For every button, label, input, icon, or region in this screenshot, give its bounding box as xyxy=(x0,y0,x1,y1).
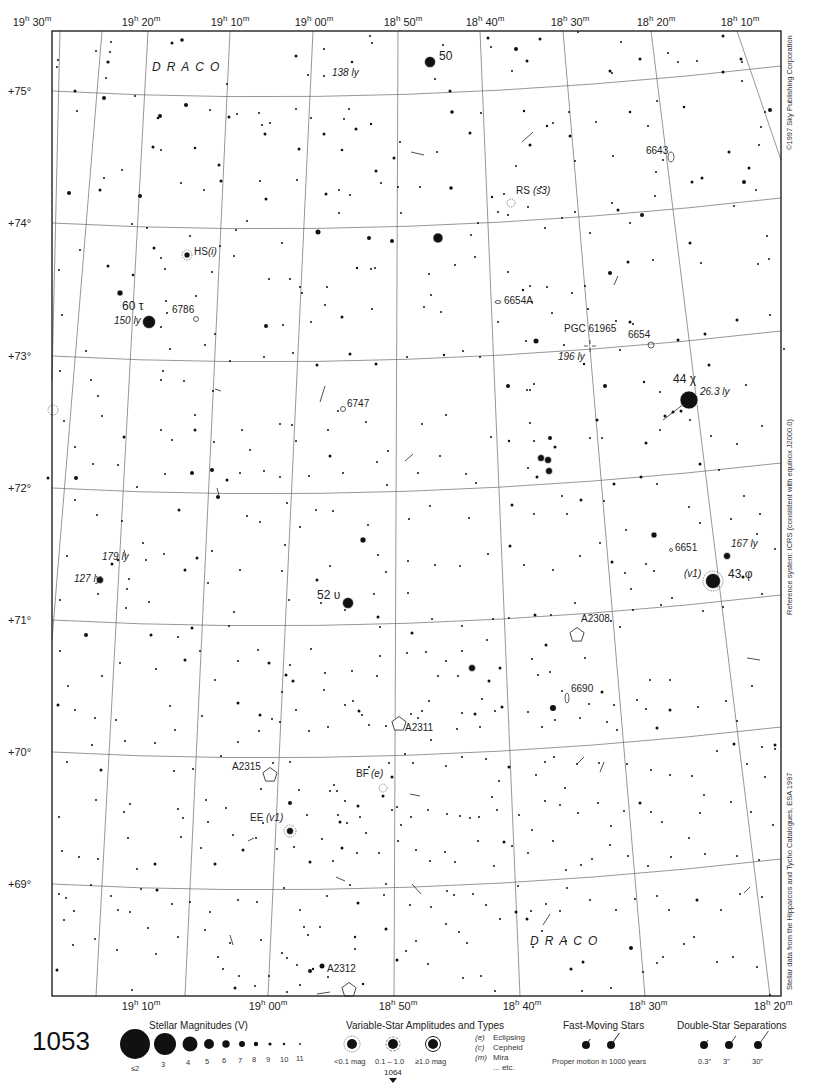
star xyxy=(65,897,67,899)
star xyxy=(210,468,214,472)
star xyxy=(204,344,206,346)
variable-sample xyxy=(347,1039,357,1049)
star xyxy=(652,259,654,261)
star xyxy=(545,903,547,905)
star xyxy=(276,848,278,850)
star xyxy=(486,639,488,641)
star xyxy=(589,437,591,439)
star xyxy=(192,768,194,770)
star xyxy=(434,564,436,566)
star xyxy=(515,165,517,167)
dec-line xyxy=(52,859,781,890)
star xyxy=(214,333,216,335)
star xyxy=(285,674,288,677)
star xyxy=(745,384,747,386)
object-label: 6654 xyxy=(628,329,650,340)
star xyxy=(650,811,652,813)
open-cluster-icon xyxy=(648,342,654,348)
star xyxy=(615,909,617,911)
star xyxy=(501,706,504,709)
star xyxy=(704,333,707,336)
star xyxy=(296,179,298,181)
star xyxy=(408,518,410,520)
legend-fast-moving-title: Fast-Moving Stars xyxy=(563,1020,644,1031)
star xyxy=(359,816,361,818)
star xyxy=(716,750,718,752)
star xyxy=(138,194,142,198)
star xyxy=(58,269,60,271)
star xyxy=(298,789,300,791)
star xyxy=(79,249,81,251)
star xyxy=(609,844,611,846)
star xyxy=(430,739,432,741)
star xyxy=(529,285,531,287)
star xyxy=(554,719,556,721)
star xyxy=(423,306,425,308)
star xyxy=(758,144,760,146)
galaxy-icon xyxy=(668,152,674,162)
star xyxy=(288,599,290,601)
star xyxy=(220,755,222,757)
magnitude-sample xyxy=(254,1042,258,1046)
star xyxy=(612,155,614,157)
ra-line xyxy=(52,31,102,640)
star xyxy=(492,618,494,620)
object-label: 127 ly xyxy=(74,573,101,584)
star xyxy=(417,472,419,474)
galaxy-icon xyxy=(565,693,569,703)
star xyxy=(57,59,59,61)
star xyxy=(730,801,732,803)
variable-amplitude-label: <0.1 mag xyxy=(334,1057,365,1066)
variable-star-ring-icon xyxy=(379,784,387,792)
star xyxy=(370,123,372,125)
star xyxy=(720,909,722,911)
star xyxy=(286,957,288,959)
star xyxy=(220,180,223,183)
star xyxy=(497,321,499,323)
legend-fast-moving-caption: Proper motion in 1000 years xyxy=(552,1057,646,1066)
star xyxy=(539,38,542,41)
star xyxy=(249,449,251,451)
star xyxy=(499,667,502,670)
star xyxy=(217,956,219,958)
object-label: 179 ly xyxy=(102,551,129,562)
object-label: 43 φ xyxy=(728,567,752,581)
coordinate-grid xyxy=(52,31,781,996)
star xyxy=(456,728,458,730)
star xyxy=(194,429,197,432)
star xyxy=(689,242,692,245)
star xyxy=(716,961,718,963)
star xyxy=(281,242,283,244)
magnitude-label: 7 xyxy=(238,1056,242,1065)
star xyxy=(656,895,658,897)
star xyxy=(268,975,270,977)
star xyxy=(693,936,695,938)
star xyxy=(559,910,561,912)
star xyxy=(222,968,224,970)
star xyxy=(105,77,107,79)
star xyxy=(669,679,671,681)
adjacent-chart-link[interactable]: 1064 xyxy=(384,1068,402,1083)
star xyxy=(653,570,655,572)
star xyxy=(63,919,65,921)
star xyxy=(654,195,656,197)
star xyxy=(533,513,535,515)
star xyxy=(205,799,207,801)
object-label: BF xyxy=(356,768,369,779)
star xyxy=(728,151,731,154)
named-star xyxy=(117,290,123,296)
star xyxy=(289,278,291,280)
star xyxy=(351,670,353,672)
star xyxy=(672,411,675,414)
star xyxy=(306,814,308,816)
star xyxy=(527,711,529,713)
star xyxy=(342,472,344,474)
star xyxy=(184,103,188,107)
star xyxy=(268,662,271,665)
dec-tick-label: +69° xyxy=(8,878,31,890)
object-label: HS xyxy=(194,246,208,257)
galaxy-cluster-icon xyxy=(570,628,584,642)
star xyxy=(180,836,182,838)
star xyxy=(59,650,61,652)
star xyxy=(153,247,156,250)
